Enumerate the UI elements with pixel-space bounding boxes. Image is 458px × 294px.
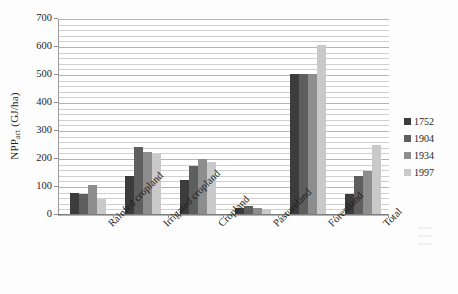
legend-swatch-icon — [404, 169, 411, 176]
legend-label: 1934 — [414, 151, 434, 161]
legend-label: 1904 — [414, 134, 434, 144]
y-axis-tick-mark — [54, 74, 58, 75]
bar[interactable] — [363, 171, 372, 214]
bar-group — [235, 19, 271, 214]
legend-label: 1752 — [414, 117, 434, 127]
legend-swatch-icon — [404, 152, 411, 159]
legend-label: 1997 — [414, 168, 434, 178]
bar-group — [290, 19, 326, 214]
legend-item[interactable]: 1997 — [404, 164, 456, 181]
bar[interactable] — [372, 145, 381, 214]
legend: 1752190419341997 — [404, 113, 456, 181]
legend-swatch-icon — [404, 135, 411, 142]
legend-item[interactable]: 1904 — [404, 130, 456, 147]
bar[interactable] — [317, 45, 326, 214]
y-axis-tick-mark — [54, 158, 58, 159]
legend-swatch-icon — [404, 118, 411, 125]
scan-artifact — [418, 224, 432, 250]
legend-item[interactable]: 1934 — [404, 147, 456, 164]
y-axis-tick-mark — [54, 186, 58, 187]
legend-item[interactable]: 1752 — [404, 113, 456, 130]
bar-group — [345, 19, 381, 214]
bar[interactable] — [262, 209, 271, 214]
y-axis-tick-mark — [54, 102, 58, 103]
chart-figure: NPPact (GJ/ha) 0100200300400500600700 17… — [0, 0, 458, 294]
y-axis-tick-mark — [54, 46, 58, 47]
bar[interactable] — [253, 208, 262, 214]
bar[interactable] — [70, 193, 79, 214]
y-axis-tick-mark — [54, 130, 58, 131]
bar[interactable] — [97, 199, 106, 214]
y-axis-tick-mark — [54, 214, 58, 215]
bars-layer — [0, 0, 458, 294]
bar[interactable] — [88, 185, 97, 214]
y-axis-tick-mark — [54, 18, 58, 19]
bar-group — [70, 19, 106, 214]
bar[interactable] — [79, 194, 88, 214]
